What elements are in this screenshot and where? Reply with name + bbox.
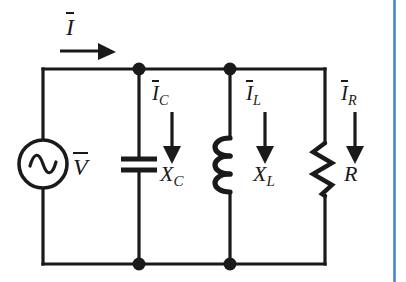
node-dot-top-capacitor <box>133 63 146 76</box>
label-source-current-symbol: I <box>66 12 74 39</box>
label-source-voltage-symbol: V <box>73 152 88 179</box>
label-inductive-reactance-symbol: X <box>253 161 266 186</box>
label-capacitor-current-subscript: C <box>159 92 169 108</box>
label-resistor-current-symbol: I <box>341 80 348 104</box>
label-capacitor-current-symbol: I <box>152 80 159 104</box>
label-resistance-symbol: R <box>344 161 357 186</box>
label-inductor-current: IL <box>246 80 261 107</box>
label-inductor-current-symbol: I <box>246 80 253 104</box>
capacitor-current-arrow-icon <box>163 112 181 164</box>
node-dot-bottom-inductor <box>224 258 237 271</box>
label-capacitor-current: IC <box>152 80 169 107</box>
ac-voltage-source-icon <box>19 140 67 188</box>
inductor-current-arrow-icon <box>256 112 274 164</box>
label-capacitive-reactance: XC <box>160 163 183 189</box>
label-capacitive-reactance-subscript: C <box>173 173 183 189</box>
label-source-voltage: V <box>73 152 88 179</box>
capacitor-icon <box>121 159 157 170</box>
circuit-schematic-svg <box>0 0 406 282</box>
resistor-current-arrow-icon <box>346 112 364 164</box>
node-dot-top-inductor <box>224 63 237 76</box>
node-dot-bottom-capacitor <box>133 258 146 271</box>
label-source-current: I <box>66 12 74 39</box>
label-inductor-current-subscript: L <box>253 92 261 108</box>
label-resistor-current-subscript: R <box>348 92 357 108</box>
label-resistor-current: IR <box>341 80 357 107</box>
source-current-arrow-icon <box>60 43 116 60</box>
resistor-icon <box>313 143 332 196</box>
label-inductive-reactance: XL <box>253 163 275 189</box>
circuit-diagram-canvas: I V IC XC IL XL IR R <box>0 0 406 282</box>
inductor-icon <box>215 138 230 192</box>
label-resistance: R <box>344 163 357 185</box>
label-capacitive-reactance-symbol: X <box>160 161 173 186</box>
label-inductive-reactance-subscript: L <box>266 173 274 189</box>
